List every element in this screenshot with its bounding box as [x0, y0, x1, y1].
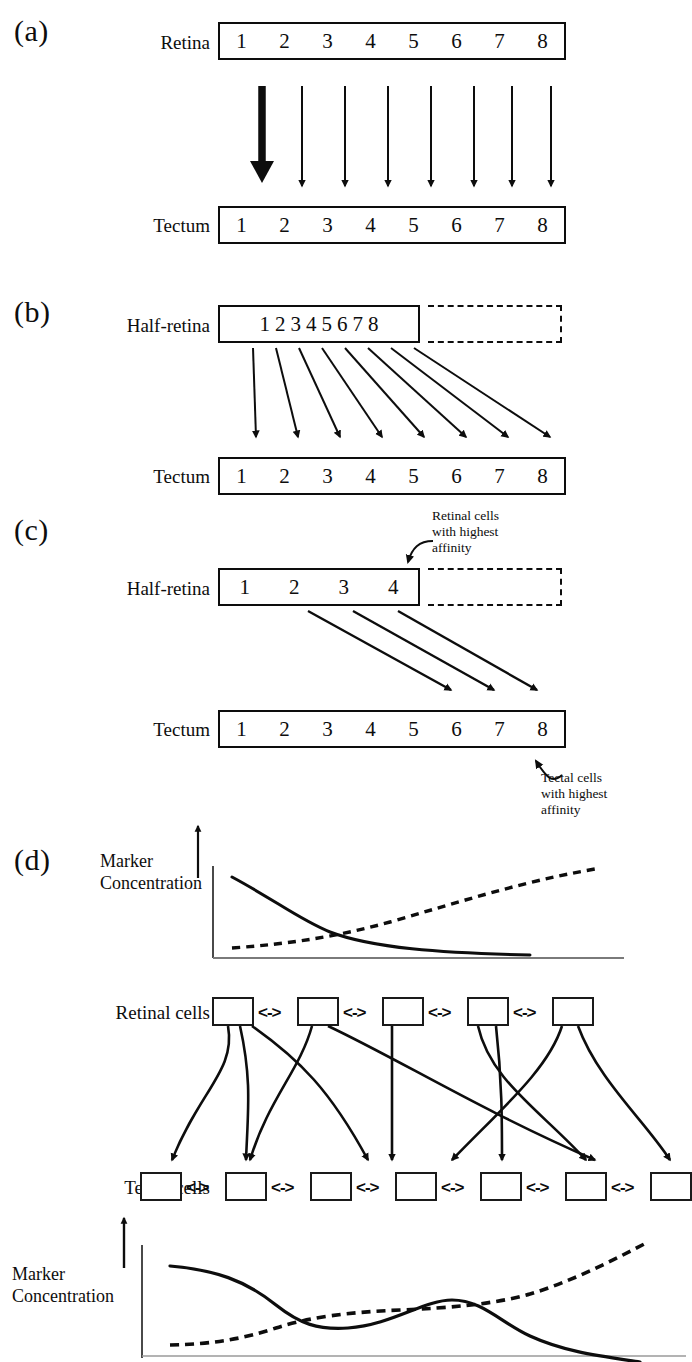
- retinal-link-symbol: <->: [513, 1003, 536, 1023]
- panel-c-tectum-label: Tectum: [105, 719, 210, 741]
- cell-number: 2: [289, 577, 300, 598]
- cell-number: 8: [537, 31, 548, 52]
- tectal-cell-box: [650, 1172, 692, 1201]
- tectal-cell-box: [480, 1172, 522, 1201]
- tectal-link-symbol: <->: [441, 1178, 464, 1198]
- panel-c-retinal-affinity-leader: [408, 541, 433, 562]
- tectal-cell-box: [140, 1172, 182, 1201]
- cell-number: 2: [279, 31, 290, 52]
- tectal-cell-box: [225, 1172, 267, 1201]
- cell-number: 5: [408, 31, 419, 52]
- panel-b-tectum-label: Tectum: [105, 466, 210, 488]
- panel-a-retina-label: Retina: [110, 32, 210, 54]
- tectal-link-symbol: <->: [271, 1178, 294, 1198]
- panel-d-projection-curves: [172, 1026, 670, 1160]
- retinal-cell-box: [297, 997, 339, 1026]
- tectal-link-symbol: <->: [186, 1178, 209, 1198]
- panel-a-tectum-strip: 1 2 3 4 5 6 7 8: [218, 206, 566, 244]
- panel-c-ablated-retina-region: [428, 568, 562, 606]
- panel-b-half-retina-label: Half-retina: [90, 315, 210, 337]
- tectal-cell-box: [395, 1172, 437, 1201]
- cell-number: 6: [451, 31, 462, 52]
- panel-b-tectum-strip: 1 2 3 4 5 6 7 8: [218, 457, 566, 495]
- retinal-cell-box: [552, 997, 594, 1026]
- cell-number: 1: [240, 577, 251, 598]
- cell-number: 7: [350, 314, 366, 335]
- cell-number: 4: [365, 215, 376, 236]
- tectal-link-symbol: <->: [611, 1178, 634, 1198]
- panel-b-ablated-retina-region: [428, 305, 562, 343]
- cell-number: 7: [494, 31, 505, 52]
- cell-number: 2: [279, 466, 290, 487]
- tectal-chart-ylabel: Marker Concentration: [12, 1264, 152, 1307]
- cell-number: 6: [335, 314, 351, 335]
- cell-number: 3: [322, 215, 333, 236]
- tectal-link-symbol: <->: [356, 1178, 379, 1198]
- cell-number: 7: [494, 215, 505, 236]
- panel-label-b: (b): [14, 295, 50, 329]
- retinal-link-symbol: <->: [258, 1003, 281, 1023]
- panel-b-projection-arrows: [253, 348, 550, 437]
- panel-d-retinal-cells-label: Retinal cells: [60, 1002, 210, 1024]
- retinal-affinity-note: Retinal cells with highest affinity: [432, 508, 499, 556]
- cell-number: 8: [366, 314, 382, 335]
- cell-number: 6: [451, 719, 462, 740]
- cell-number: 6: [451, 215, 462, 236]
- cell-number: 7: [494, 466, 505, 487]
- cell-number: 5: [408, 215, 419, 236]
- tectal-link-symbol: <->: [526, 1178, 549, 1198]
- cell-number: 5: [408, 466, 419, 487]
- tectal-marker-chart: [124, 1218, 686, 1362]
- panel-c-half-retina-label: Half-retina: [90, 578, 210, 600]
- cell-number: 3: [288, 314, 304, 335]
- retinal-marker-chart: [198, 826, 624, 958]
- retinal-chart-ylabel: Marker Concentration: [100, 851, 220, 894]
- panel-a-projection-arrows: [262, 86, 551, 186]
- cell-number: 1: [236, 466, 247, 487]
- cell-number: 7: [494, 719, 505, 740]
- cell-number: 5: [408, 719, 419, 740]
- cell-number: 1: [236, 215, 247, 236]
- cell-number: 3: [322, 31, 333, 52]
- panel-c-half-retina-strip: 1 2 3 4: [218, 568, 420, 606]
- panel-label-d: (d): [14, 843, 50, 877]
- retinal-link-symbol: <->: [343, 1003, 366, 1023]
- cell-number: 4: [365, 31, 376, 52]
- cell-number: 2: [279, 719, 290, 740]
- cell-number: 5: [319, 314, 335, 335]
- cell-number: 4: [304, 314, 320, 335]
- cell-number: 8: [537, 466, 548, 487]
- panel-c-projection-arrows: [308, 611, 537, 690]
- retinal-cell-box: [467, 997, 509, 1026]
- cell-number: 3: [322, 719, 333, 740]
- cell-number: 4: [365, 719, 376, 740]
- panel-a-tectum-label: Tectum: [105, 215, 210, 237]
- retinal-link-symbol: <->: [428, 1003, 451, 1023]
- tectal-cell-box: [565, 1172, 607, 1201]
- cell-number: 4: [365, 466, 376, 487]
- cell-number: 1: [236, 31, 247, 52]
- panel-b-half-retina-strip: 1 2 3 4 5 6 7 8: [218, 305, 420, 343]
- retinal-cell-box: [212, 997, 254, 1026]
- panel-label-c: (c): [14, 513, 49, 547]
- cell-number: 8: [537, 215, 548, 236]
- cell-number: 8: [537, 719, 548, 740]
- panel-label-a: (a): [14, 14, 49, 48]
- cell-number: 2: [279, 215, 290, 236]
- panel-a-retina-strip: 1 2 3 4 5 6 7 8: [218, 22, 566, 60]
- cell-number: 6: [451, 466, 462, 487]
- tectal-cell-box: [310, 1172, 352, 1201]
- cell-number: 3: [322, 466, 333, 487]
- cell-number: 1: [236, 719, 247, 740]
- retinal-cell-box: [382, 997, 424, 1026]
- cell-number: 3: [339, 577, 350, 598]
- cell-number: 4: [388, 577, 399, 598]
- tectal-affinity-note: Tectal cells with highest affinity: [541, 770, 607, 818]
- panel-c-tectum-strip: 1 2 3 4 5 6 7 8: [218, 710, 566, 748]
- cell-number: 2: [273, 314, 289, 335]
- cell-number: 1: [257, 314, 273, 335]
